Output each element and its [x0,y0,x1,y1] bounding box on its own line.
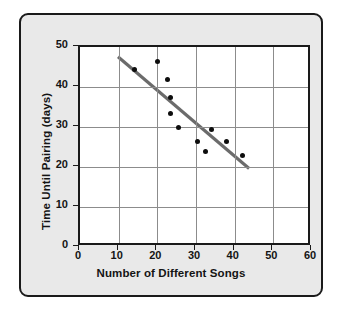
gridline-vertical [157,47,158,243]
y-axis-tick-label: 50 [44,38,68,50]
data-point [168,111,173,116]
x-axis-title: Number of Different Songs [21,267,321,279]
x-axis-tick-label: 60 [297,249,323,261]
x-axis-tick-label: 0 [65,249,91,261]
data-point [155,59,160,64]
gridline-vertical [235,47,236,243]
gridline-vertical [196,47,197,243]
data-point [168,95,173,100]
y-axis-tick [73,205,78,206]
data-point [240,153,245,158]
y-axis-title: Time Until Pairing (days) [40,93,52,230]
x-axis-tick-label: 50 [258,249,284,261]
gridline-horizontal [80,87,308,88]
gridline-vertical [273,47,274,243]
data-point [165,77,170,82]
y-axis-tick [73,125,78,126]
plot-area [78,45,310,245]
data-point [132,67,137,72]
x-axis-tick-label: 20 [142,249,168,261]
x-axis-tick-label: 30 [181,249,207,261]
x-axis-tick-label: 10 [104,249,130,261]
x-axis-tick-label: 40 [220,249,246,261]
y-axis-tick-label: 40 [44,78,68,90]
gridline-horizontal [80,207,308,208]
data-point [209,127,214,132]
gridline-vertical [119,47,120,243]
y-axis-tick [73,245,78,246]
y-axis-tick [73,165,78,166]
data-point [176,125,181,130]
chart-figure-frame: 010203040506001020304050 Time Until Pair… [19,13,323,297]
y-axis-tick [73,85,78,86]
gridline-horizontal [80,127,308,128]
y-axis-tick [73,45,78,46]
gridline-horizontal [80,167,308,168]
y-axis-tick-label: 0 [44,238,68,250]
trend-line [118,57,249,169]
